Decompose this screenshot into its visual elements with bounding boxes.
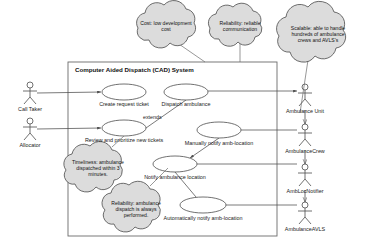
use-case-label-dispatch-ambulance: Dispatch ambulance <box>162 101 211 107</box>
use-case-label-review-prioritize-tickets: Review and prioritize new tickets <box>85 137 163 143</box>
system-boundary-title: Computer Aided Dispatch (CAD) System <box>75 66 194 73</box>
actor-amb-loc-notifier-figure <box>298 164 312 186</box>
use-case-manually-notify <box>197 122 241 138</box>
actor-ambulance-avls-figure <box>298 202 312 224</box>
use-case-review-prioritize-tickets <box>102 120 146 136</box>
use-case-create-request-ticket <box>102 84 146 100</box>
actor-ambulance-unit-figure <box>298 84 312 106</box>
actor-label-call-taker: Call Taker <box>18 106 42 112</box>
actor-label-allocator: Allocator <box>20 142 41 148</box>
relationship-label-extends: extends <box>143 114 162 120</box>
use-case-label-manually-notify: Manually notify amb-location <box>185 140 253 146</box>
note-reliability-communication <box>208 3 261 46</box>
use-case-automatically-notify <box>180 197 226 213</box>
use-case-label-create-request-ticket: Create request ticket <box>99 101 149 107</box>
actor-call-taker-figure <box>23 82 37 104</box>
actor-label-ambulance-unit: Ambulance Unit <box>286 108 324 114</box>
note-scalable <box>277 1 346 62</box>
note-timeliness <box>64 142 122 192</box>
actor-allocator-figure <box>23 118 37 140</box>
actor-label-ambulance-crew: AmbulanceCrew <box>285 148 325 154</box>
use-case-label-notify-ambulance-location: Notify ambulance location <box>144 174 206 180</box>
note-reliability-dispatch <box>102 181 160 232</box>
actor-ambulance-crew-figure <box>298 124 312 146</box>
note-anchor-lines <box>112 42 308 186</box>
use-case-notify-ambulance-location <box>153 156 197 172</box>
use-case-dispatch-ambulance <box>164 84 208 100</box>
actor-label-ambulance-avls: AmbulanceAVLS <box>285 226 325 232</box>
uml-use-case-diagram: Computer Aided Dispatch (CAD) System Cal… <box>0 0 369 249</box>
use-case-label-automatically-notify: Automatically notify amb-location <box>164 215 243 221</box>
actor-label-amb-loc-notifier: AmbLocNotifier <box>287 188 324 194</box>
diagram-vector-layer <box>0 0 369 249</box>
note-cost <box>137 1 196 48</box>
